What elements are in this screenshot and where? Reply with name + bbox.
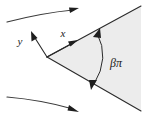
wedge-flow-figure: x y βπ xyxy=(0,0,142,120)
lower-streamline-arrowhead xyxy=(68,105,80,112)
y-axis-arrow xyxy=(31,31,47,57)
figure-canvas: x y βπ xyxy=(0,0,142,120)
upper-streamline-arrowhead xyxy=(69,8,79,14)
lower-streamline xyxy=(7,97,79,112)
angle-label-beta-pi: βπ xyxy=(109,56,123,70)
upper-streamline-path xyxy=(7,10,73,22)
upper-streamline xyxy=(7,8,79,23)
x-axis-label: x xyxy=(60,27,66,39)
lower-streamline-path xyxy=(7,97,73,109)
y-axis-line xyxy=(35,38,47,57)
y-axis-label: y xyxy=(17,35,23,47)
shaded-wedge-region xyxy=(47,6,141,111)
